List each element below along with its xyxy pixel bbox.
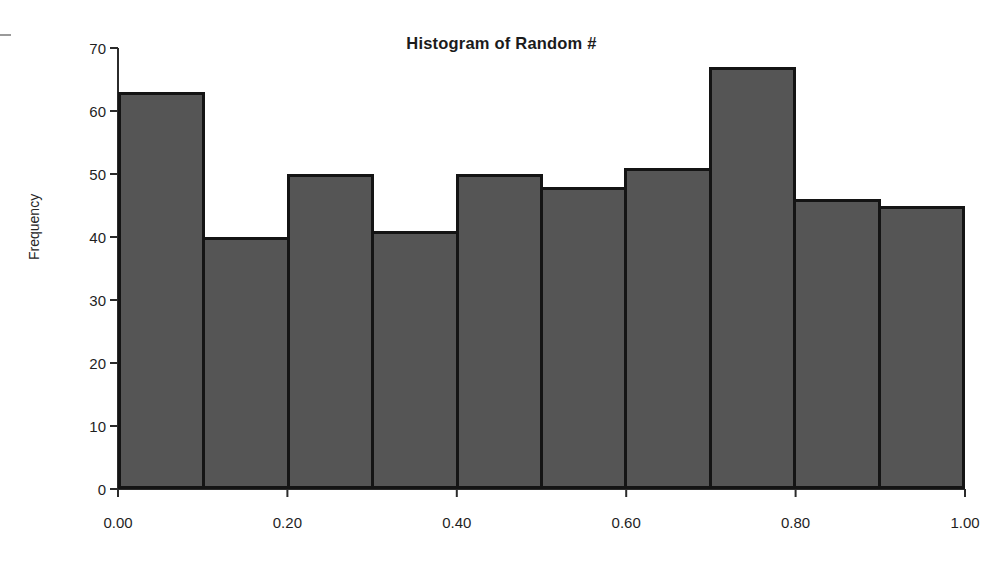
x-axis-tick-label: 0.00 xyxy=(73,514,163,531)
histogram-chart: Histogram of Random # Frequency 01020304… xyxy=(0,0,1003,562)
histogram-bar xyxy=(118,92,205,489)
histogram-bar xyxy=(878,206,965,490)
histogram-bar xyxy=(371,231,458,489)
x-axis-tick-label: 0.80 xyxy=(751,514,841,531)
x-axis-tick-label: 0.40 xyxy=(412,514,502,531)
histogram-bar xyxy=(624,168,711,489)
histogram-bar xyxy=(540,187,627,489)
histogram-bar xyxy=(793,199,880,489)
histogram-bar xyxy=(287,174,374,489)
histogram-bar xyxy=(202,237,289,489)
histogram-bar xyxy=(456,174,543,489)
plot-area xyxy=(118,48,965,489)
x-axis-tick-label: 1.00 xyxy=(920,514,1003,531)
bar-series xyxy=(118,48,965,489)
x-axis-tick-label: 0.20 xyxy=(242,514,332,531)
histogram-bar xyxy=(709,67,796,489)
x-axis-tick-label: 0.60 xyxy=(581,514,671,531)
